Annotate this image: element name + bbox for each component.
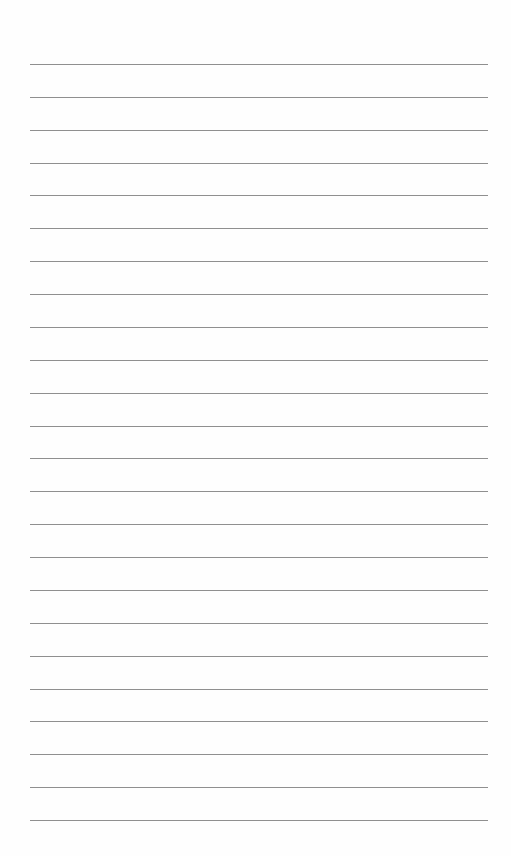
ruled-line bbox=[30, 557, 488, 558]
ruled-line bbox=[30, 458, 488, 459]
ruled-line bbox=[30, 393, 488, 394]
ruled-line bbox=[30, 623, 488, 624]
lined-paper-sheet bbox=[0, 0, 511, 856]
ruled-line bbox=[30, 721, 488, 722]
ruled-line bbox=[30, 787, 488, 788]
ruled-line bbox=[30, 195, 488, 196]
ruled-line bbox=[30, 228, 488, 229]
ruled-line bbox=[30, 689, 488, 690]
ruled-line bbox=[30, 754, 488, 755]
ruled-line bbox=[30, 491, 488, 492]
ruled-line bbox=[30, 163, 488, 164]
ruled-line bbox=[30, 524, 488, 525]
ruled-line bbox=[30, 327, 488, 328]
ruled-line bbox=[30, 261, 488, 262]
ruled-line bbox=[30, 130, 488, 131]
ruled-line bbox=[30, 590, 488, 591]
ruled-line bbox=[30, 97, 488, 98]
ruled-line bbox=[30, 360, 488, 361]
ruled-line bbox=[30, 656, 488, 657]
ruled-line bbox=[30, 426, 488, 427]
ruled-line bbox=[30, 64, 488, 65]
ruled-line bbox=[30, 820, 488, 821]
ruled-line bbox=[30, 294, 488, 295]
